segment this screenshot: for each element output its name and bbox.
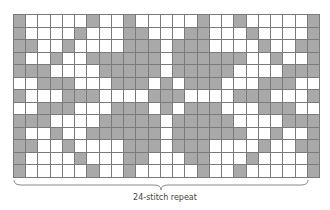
main-stitch-cell [234,65,245,77]
main-stitch-cell [222,153,233,165]
contrast-stitch-cell [198,153,209,165]
contrast-stitch-cell [222,53,233,65]
main-stitch-cell [63,28,74,40]
main-stitch-cell [87,28,98,40]
main-stitch-cell [87,153,98,165]
contrast-stitch-cell [210,128,221,140]
contrast-stitch-cell [124,128,135,140]
main-stitch-cell [173,78,184,90]
main-stitch-cell [51,40,62,52]
contrast-stitch-cell [124,78,135,90]
contrast-stitch-cell [75,90,86,102]
contrast-stitch-cell [198,53,209,65]
contrast-stitch-cell [26,65,37,77]
main-stitch-cell [271,40,282,52]
main-stitch-cell [259,128,270,140]
contrast-stitch-cell [63,40,74,52]
main-stitch-cell [173,165,184,177]
main-stitch-cell [51,28,62,40]
contrast-stitch-cell [173,53,184,65]
contrast-stitch-cell [185,128,196,140]
contrast-stitch-cell [234,90,245,102]
contrast-stitch-cell [210,103,221,115]
main-stitch-cell [161,115,172,127]
contrast-stitch-cell [51,103,62,115]
main-stitch-cell [26,28,37,40]
main-stitch-cell [87,78,98,90]
contrast-stitch-cell [51,53,62,65]
contrast-stitch-cell [136,103,147,115]
contrast-stitch-cell [185,140,196,152]
contrast-stitch-cell [14,53,25,65]
main-stitch-cell [112,140,123,152]
main-stitch-cell [247,165,258,177]
main-stitch-cell [234,140,245,152]
main-stitch-cell [112,15,123,27]
main-stitch-cell [38,15,49,27]
main-stitch-cell [149,153,160,165]
contrast-stitch-cell [14,40,25,52]
contrast-stitch-cell [198,28,209,40]
contrast-stitch-cell [308,28,319,40]
contrast-stitch-cell [173,40,184,52]
main-stitch-cell [75,165,86,177]
contrast-stitch-cell [173,65,184,77]
contrast-stitch-cell [185,78,196,90]
main-stitch-cell [247,40,258,52]
main-stitch-cell [185,15,196,27]
main-stitch-cell [222,15,233,27]
contrast-stitch-cell [100,53,111,65]
contrast-stitch-cell [296,140,307,152]
contrast-stitch-cell [124,40,135,52]
main-stitch-cell [75,103,86,115]
main-stitch-cell [173,153,184,165]
contrast-stitch-cell [14,165,25,177]
contrast-stitch-cell [51,78,62,90]
contrast-stitch-cell [136,78,147,90]
main-stitch-cell [100,103,111,115]
main-stitch-cell [100,78,111,90]
main-stitch-cell [75,128,86,140]
contrast-stitch-cell [112,53,123,65]
contrast-stitch-cell [87,128,98,140]
contrast-stitch-cell [87,15,98,27]
main-stitch-cell [210,140,221,152]
main-stitch-cell [51,65,62,77]
main-stitch-cell [26,90,37,102]
main-stitch-cell [247,65,258,77]
contrast-stitch-cell [296,65,307,77]
contrast-stitch-cell [259,78,270,90]
main-stitch-cell [51,140,62,152]
contrast-stitch-cell [136,28,147,40]
main-stitch-cell [149,78,160,90]
main-stitch-cell [308,103,319,115]
main-stitch-cell [75,53,86,65]
contrast-stitch-cell [271,103,282,115]
main-stitch-cell [283,140,294,152]
contrast-stitch-cell [259,103,270,115]
main-stitch-cell [222,140,233,152]
main-stitch-cell [234,153,245,165]
main-stitch-cell [222,40,233,52]
contrast-stitch-cell [296,40,307,52]
main-stitch-cell [75,15,86,27]
main-stitch-cell [149,28,160,40]
contrast-stitch-cell [14,115,25,127]
contrast-stitch-cell [308,65,319,77]
contrast-stitch-cell [210,65,221,77]
main-stitch-cell [296,53,307,65]
contrast-stitch-cell [185,53,196,65]
main-stitch-cell [247,128,258,140]
main-stitch-cell [296,28,307,40]
contrast-stitch-cell [124,65,135,77]
main-stitch-cell [136,15,147,27]
main-stitch-cell [247,103,258,115]
main-stitch-cell [271,165,282,177]
main-stitch-cell [26,53,37,65]
main-stitch-cell [234,28,245,40]
main-stitch-cell [296,165,307,177]
main-stitch-cell [283,90,294,102]
main-stitch-cell [26,153,37,165]
main-stitch-cell [112,40,123,52]
main-stitch-cell [112,153,123,165]
